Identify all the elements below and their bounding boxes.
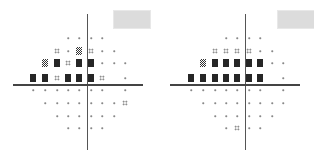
test-point-dot (101, 127, 103, 129)
test-point-dot (90, 89, 92, 91)
test-point-dot (236, 89, 238, 91)
test-point-dot (225, 102, 227, 104)
test-point-black (223, 59, 229, 67)
test-point-dot (78, 127, 80, 129)
test-point-dot (225, 115, 227, 117)
test-point-black (30, 74, 36, 82)
test-point-dot (44, 102, 46, 104)
test-point-dot (113, 50, 115, 52)
test-point-dot (78, 115, 80, 117)
test-point-dot (259, 37, 261, 39)
test-point-dot (282, 77, 284, 79)
test-point-dot (113, 102, 115, 104)
legend-box (113, 10, 151, 29)
test-point-black (212, 59, 218, 67)
test-point-dot (225, 89, 227, 91)
test-point-dot (101, 102, 103, 104)
test-point-dot (282, 102, 284, 104)
test-point-dot (101, 37, 103, 39)
test-point-checker (200, 59, 206, 67)
test-point-dot (113, 62, 115, 64)
test-point-dot (271, 115, 273, 117)
test-point-black (257, 59, 263, 67)
test-point-4dot (224, 49, 229, 54)
test-point-dot (248, 37, 250, 39)
test-point-dot (124, 89, 126, 91)
test-point-dot (56, 89, 58, 91)
test-point-4dot (123, 101, 128, 106)
test-point-dot (56, 102, 58, 104)
test-point-dot (202, 102, 204, 104)
test-point-dot (101, 115, 103, 117)
test-point-4dot (89, 49, 94, 54)
test-point-black (234, 74, 240, 82)
test-point-dot (67, 127, 69, 129)
test-point-dot (236, 115, 238, 117)
test-point-black (88, 74, 94, 82)
test-point-checker (42, 59, 48, 67)
test-point-dot (214, 102, 216, 104)
test-point-dot (67, 115, 69, 117)
test-point-black (200, 74, 206, 82)
test-point-4dot (100, 76, 105, 81)
test-point-4dot (235, 126, 240, 131)
test-point-dot (101, 62, 103, 64)
visual-field-plot-left (0, 0, 157, 157)
test-point-black (65, 74, 71, 82)
test-point-dot (282, 62, 284, 64)
test-point-dot (271, 62, 273, 64)
test-point-dot (56, 115, 58, 117)
test-point-black (246, 59, 252, 67)
test-point-4dot (247, 49, 252, 54)
test-point-dot (248, 115, 250, 117)
vertical-meridian-axis (245, 14, 246, 150)
test-point-dot (248, 127, 250, 129)
test-point-4dot (55, 76, 60, 81)
test-point-dot (248, 102, 250, 104)
test-point-dot (214, 115, 216, 117)
vertical-meridian-axis (87, 14, 88, 150)
test-point-dot (259, 50, 261, 52)
test-point-dot (78, 89, 80, 91)
test-point-black (42, 74, 48, 82)
test-point-dot (236, 102, 238, 104)
test-point-black (257, 74, 263, 82)
test-point-black (76, 74, 82, 82)
test-point-dot (225, 127, 227, 129)
test-point-dot (32, 89, 34, 91)
test-point-dot (214, 89, 216, 91)
test-point-dot (271, 102, 273, 104)
test-point-dot (113, 115, 115, 117)
test-point-4dot (235, 49, 240, 54)
test-point-dot (90, 102, 92, 104)
test-point-dot (236, 37, 238, 39)
test-point-dot (101, 50, 103, 52)
test-point-black (223, 74, 229, 82)
test-point-4dot (55, 49, 60, 54)
test-point-dot (259, 115, 261, 117)
test-point-dot (282, 89, 284, 91)
test-point-dot (190, 89, 192, 91)
test-point-dot (90, 37, 92, 39)
test-point-dot (78, 102, 80, 104)
visual-field-plot-right (157, 0, 314, 157)
test-point-dot (67, 50, 69, 52)
test-point-dot (259, 127, 261, 129)
test-point-dot (67, 102, 69, 104)
test-point-black (54, 59, 60, 67)
horizontal-meridian-axis (170, 84, 300, 86)
test-point-black (212, 74, 218, 82)
test-point-dot (90, 115, 92, 117)
test-point-dot (90, 127, 92, 129)
horizontal-meridian-axis (13, 84, 143, 86)
test-point-checker (76, 47, 82, 55)
test-point-4dot (213, 49, 218, 54)
test-point-black (188, 74, 194, 82)
test-point-dot (248, 89, 250, 91)
test-point-dot (124, 62, 126, 64)
test-point-black (246, 74, 252, 82)
test-point-4dot (66, 61, 71, 66)
test-point-dot (67, 37, 69, 39)
test-point-dot (225, 37, 227, 39)
test-point-dot (124, 77, 126, 79)
